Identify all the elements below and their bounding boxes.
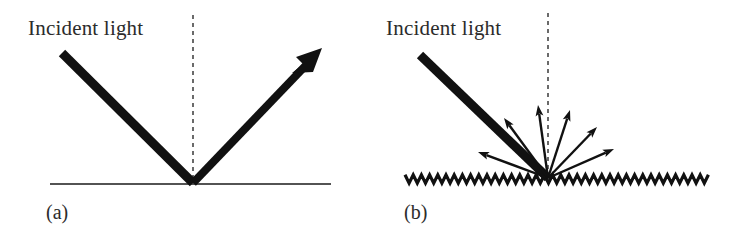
panel-a-reflected-ray-arrowhead	[292, 48, 322, 73]
panel-b-caption: (b)	[404, 201, 427, 224]
panel-a-incident-light-label: Incident light	[28, 16, 143, 40]
panel-a-caption: (a)	[46, 201, 68, 224]
panel-b-incident-light-label: Incident light	[386, 16, 501, 40]
panel-b-incident-ray	[420, 55, 548, 178]
panel-a-incident-ray	[62, 53, 193, 183]
panel-a-reflected-ray	[193, 60, 311, 183]
panel-b: Incident light (b)	[386, 13, 708, 224]
reflection-figure: Incident light (a) Incident light (b)	[0, 0, 751, 231]
diagram-canvas: Incident light (a) Incident light (b)	[0, 0, 751, 231]
panel-a: Incident light (a)	[28, 15, 331, 224]
panel-b-rough-surface-zigzag	[405, 175, 708, 183]
panel-b-scattered-rays-group	[478, 105, 614, 178]
